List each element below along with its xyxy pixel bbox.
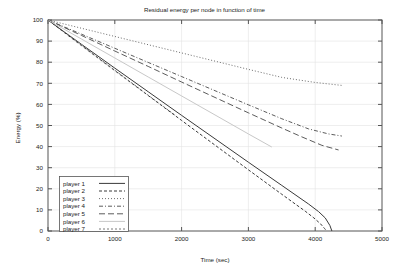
y-tick-label-90: 90 bbox=[36, 37, 43, 44]
y-tick-label-60: 60 bbox=[36, 101, 43, 108]
residual-energy-line-chart: Residual energy per node in function of … bbox=[0, 0, 409, 269]
chart-title: Residual energy per node in function of … bbox=[144, 6, 266, 13]
x-tick-label-0: 0 bbox=[46, 235, 50, 242]
chart-legend: player 1player 2player 3player 4player 5… bbox=[60, 177, 129, 233]
y-tick-label-100: 100 bbox=[33, 16, 44, 23]
y-tick-label-50: 50 bbox=[36, 122, 43, 129]
x-tick-label-5000: 5000 bbox=[375, 235, 389, 242]
y-axis-tick-labels: 0102030405060708090100 bbox=[33, 16, 44, 234]
x-tick-label-4000: 4000 bbox=[308, 235, 322, 242]
y-tick-label-80: 80 bbox=[36, 58, 43, 65]
series-line-player-5 bbox=[48, 20, 339, 150]
y-tick-label-30: 30 bbox=[36, 164, 43, 171]
series-line-player-4 bbox=[48, 20, 342, 136]
chart-container: Residual energy per node in function of … bbox=[0, 0, 409, 269]
y-tick-label-20: 20 bbox=[36, 185, 43, 192]
x-tick-label-1000: 1000 bbox=[108, 235, 122, 242]
legend-label-player-4: player 4 bbox=[63, 202, 86, 209]
legend-label-player-5: player 5 bbox=[63, 210, 86, 217]
legend-label-player-6: player 6 bbox=[63, 218, 86, 225]
x-axis-tick-labels: 010002000300040005000 bbox=[46, 235, 389, 242]
y-tick-label-0: 0 bbox=[40, 227, 44, 234]
legend-label-player-2: player 2 bbox=[63, 187, 86, 194]
x-axis-label: Time (sec) bbox=[201, 256, 230, 263]
y-tick-label-40: 40 bbox=[36, 143, 43, 150]
legend-label-player-1: player 1 bbox=[63, 180, 86, 187]
x-tick-label-3000: 3000 bbox=[242, 235, 256, 242]
legend-label-player-3: player 3 bbox=[63, 195, 86, 202]
y-axis-label: Energy (%) bbox=[14, 113, 21, 144]
y-tick-label-10: 10 bbox=[36, 206, 43, 213]
legend-label-player-7: player 7 bbox=[63, 225, 86, 232]
y-tick-label-70: 70 bbox=[36, 80, 43, 87]
x-tick-label-2000: 2000 bbox=[175, 235, 189, 242]
series-line-player-3 bbox=[48, 20, 342, 85]
